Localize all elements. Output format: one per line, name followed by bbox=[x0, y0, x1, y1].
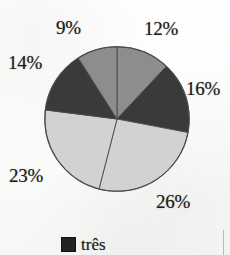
slice-label-14: 14% bbox=[8, 53, 42, 72]
pie-chart-graphic bbox=[44, 46, 190, 192]
legend-box-edge bbox=[223, 230, 224, 255]
slice-label-16: 16% bbox=[186, 79, 220, 98]
pie-chart-figure: 9% 12% 14% 16% 23% 26% três bbox=[0, 0, 230, 255]
legend-swatch-icon bbox=[61, 237, 76, 252]
slice-label-26: 26% bbox=[156, 192, 190, 211]
slice-label-23: 23% bbox=[9, 166, 43, 185]
slice-label-9: 9% bbox=[56, 18, 81, 37]
slice-label-12: 12% bbox=[144, 19, 178, 38]
legend-item-tres[interactable]: três bbox=[61, 236, 106, 253]
chart-legend: três bbox=[0, 228, 230, 255]
pie-svg bbox=[44, 46, 190, 192]
legend-item-label: três bbox=[81, 236, 106, 253]
